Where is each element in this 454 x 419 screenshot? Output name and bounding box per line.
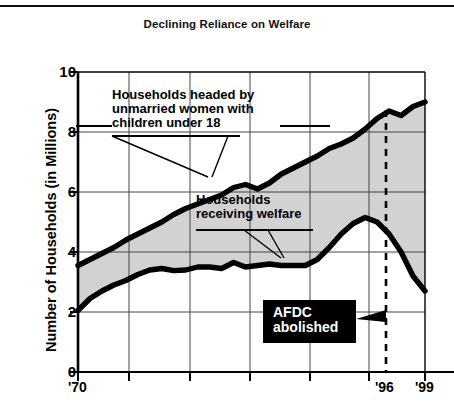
annotation-upper-leader-2 [212,136,228,177]
afdc-abolished-callout: AFDC abolished [263,300,356,343]
chart-figure: Declining Reliance on Welfare Number of … [0,0,454,419]
annotation-lower-text: Households receiving welfare [196,193,302,221]
annotation-upper-text: Households headed by unmarried women wit… [112,88,254,130]
annotation-upper-leader-1 [112,136,208,177]
